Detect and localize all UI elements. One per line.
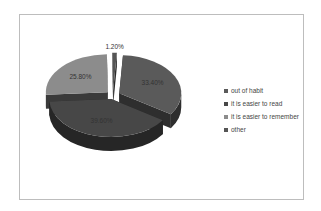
legend-item-easier-to-remember: it is easier to remember: [224, 110, 299, 123]
legend-swatch: [224, 89, 228, 93]
legend-label: out of habit: [231, 87, 263, 94]
pie-slice-other: [112, 53, 117, 105]
legend-label: other: [231, 126, 246, 133]
legend: out of habit it is easier to read it is …: [224, 84, 299, 136]
legend-label: it is easier to remember: [231, 113, 299, 120]
data-label: 39.60%: [91, 117, 113, 124]
legend-item-easier-to-read: it is easier to read: [224, 97, 299, 110]
legend-item-other: other: [224, 123, 299, 136]
legend-swatch: [224, 128, 228, 132]
data-label: 1.20%: [105, 43, 124, 50]
data-label: 25.80%: [69, 73, 91, 80]
legend-swatch: [224, 102, 228, 106]
legend-label: it is easier to read: [231, 100, 282, 107]
legend-item-out-of-habit: out of habit: [224, 84, 299, 97]
legend-swatch: [224, 115, 228, 119]
data-label: 33.40%: [142, 79, 164, 86]
